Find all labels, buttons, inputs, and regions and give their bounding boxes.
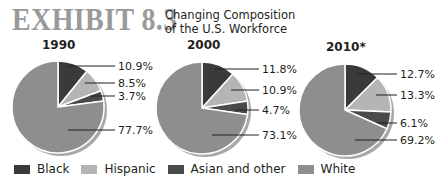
pie-value-label: 3.7% [118, 90, 146, 103]
pie-value-label: 8.5% [118, 77, 146, 90]
pie-value-label: 6.1% [400, 117, 428, 130]
legend-label-asian-other: Asian and other [191, 162, 286, 176]
legend-swatch-black [14, 165, 30, 174]
legend-item-hispanic: Hispanic [81, 162, 155, 176]
pie-value-label: 12.7% [400, 68, 435, 81]
pie-charts: 10.9%8.5%3.7%77.7% 11.8%10.9%4.7%73.1% 1… [0, 0, 443, 187]
pie-chart-2010: 12.7%13.3%6.1%69.2% [299, 64, 435, 159]
pie-value-label: 4.7% [262, 104, 290, 117]
legend-swatch-asian-other [168, 165, 184, 174]
legend-swatch-white [298, 165, 314, 174]
pie-value-label: 11.8% [262, 63, 297, 76]
legend-label-white: White [321, 162, 356, 176]
pie-value-label: 77.7% [118, 124, 153, 137]
pie-value-label: 69.2% [400, 134, 435, 147]
pie-chart-2000: 11.8%10.9%4.7%73.1% [156, 62, 297, 157]
pie-chart-1990: 10.9%8.5%3.7%77.7% [12, 60, 153, 156]
legend-label-black: Black [37, 162, 69, 176]
legend-item-white: White [298, 162, 356, 176]
pie-value-label: 13.3% [400, 89, 435, 102]
legend: Black Hispanic Asian and other White [14, 162, 367, 176]
legend-item-black: Black [14, 162, 69, 176]
legend-label-hispanic: Hispanic [104, 162, 155, 176]
pie-value-label: 10.9% [118, 60, 153, 73]
legend-swatch-hispanic [81, 165, 97, 174]
pie-value-label: 10.9% [262, 84, 297, 97]
pie-value-label: 73.1% [262, 129, 297, 142]
legend-item-asian-other: Asian and other [168, 162, 286, 176]
